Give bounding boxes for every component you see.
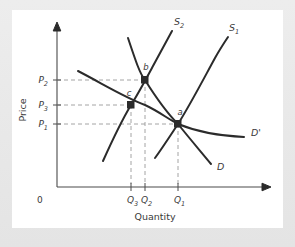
y-tick-label-p1: P1: [38, 119, 48, 132]
curve-label-s1: S1: [229, 22, 239, 36]
curve-label-s2: S2: [174, 16, 184, 30]
x-axis-title: Quantity: [134, 211, 175, 222]
demand-curve-d: [128, 38, 211, 164]
supply-demand-chart: b c a S2 S1 D' D P2 P3 P1 Q3 Q2 Q1 0: [0, 0, 295, 247]
x-tick-label-q2: Q2: [141, 195, 152, 208]
y-tick-label-p3: P3: [38, 100, 48, 113]
x-axis-arrowhead: [262, 183, 271, 191]
curve-labels-group: S2 S1 D' D: [174, 16, 261, 172]
x-tick-label-q1: Q1: [174, 195, 185, 208]
y-axis-arrowhead: [53, 22, 61, 31]
point-marker-b: [142, 77, 149, 84]
curve-label-d-prime: D': [251, 127, 261, 138]
x-tick-labels-group: Q3 Q2 Q1: [127, 195, 185, 208]
curve-label-d: D: [217, 161, 224, 172]
figure-root: b c a S2 S1 D' D P2 P3 P1 Q3 Q2 Q1 0: [0, 0, 295, 247]
point-marker-a: [175, 121, 182, 128]
x-tick-label-q3: Q3: [127, 195, 138, 208]
origin-label: 0: [37, 195, 43, 205]
y-tick-labels-group: P2 P3 P1: [38, 75, 48, 132]
supply-curve-s2: [103, 31, 172, 161]
point-label-c: c: [127, 88, 132, 98]
curves-group: [78, 31, 244, 164]
y-tick-label-p2: P2: [38, 75, 48, 88]
y-axis-title: Price: [17, 98, 28, 121]
point-labels-group: b c a: [127, 62, 183, 117]
point-label-a: a: [177, 107, 182, 117]
point-label-b: b: [143, 62, 148, 72]
point-marker-c: [128, 102, 135, 109]
